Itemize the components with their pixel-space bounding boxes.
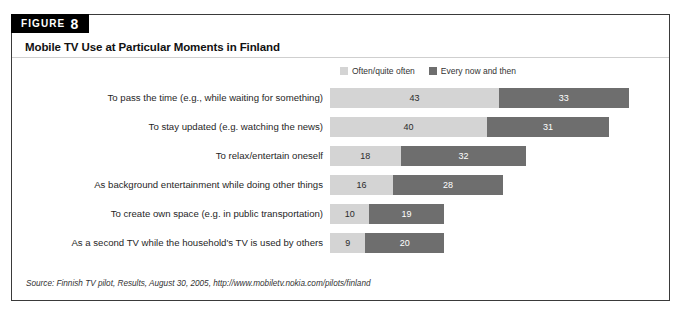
chart-row-label: As a second TV while the household's TV … [0,233,323,253]
chart-row: To create own space (e.g. in public tran… [0,204,686,224]
chart-row-bars: 4333 [330,88,629,108]
chart-legend: Often/quite often Every now and then [340,66,516,76]
chart-row-label: To relax/entertain oneself [0,146,323,166]
chart-row-bars: 1019 [330,204,444,224]
chart-row: To pass the time (e.g., while waiting fo… [0,88,686,108]
bar-segment-often-quite-often: 9 [330,233,365,253]
figure-badge-word: FIGURE [21,19,65,29]
bar-segment-often-quite-often: 16 [330,175,393,195]
chart-row: As background entertainment while doing … [0,175,686,195]
chart-row-label: As background entertainment while doing … [0,175,323,195]
chart-row: To stay updated (e.g. watching the news)… [0,117,686,137]
chart-row-label: To stay updated (e.g. watching the news) [0,117,323,137]
chart-row-label: To create own space (e.g. in public tran… [0,204,323,224]
title-divider [12,57,669,58]
legend-item-often-quite-often: Often/quite often [340,66,415,76]
bar-segment-often-quite-often: 18 [330,146,401,166]
legend-item-every-now-and-then: Every now and then [429,66,516,76]
chart-row: To relax/entertain oneself1832 [0,146,686,166]
bar-segment-often-quite-often: 40 [330,117,487,137]
page-title: Mobile TV Use at Particular Moments in F… [25,41,280,53]
legend-label-often-quite-often: Often/quite often [352,66,415,76]
chart-row: As a second TV while the household's TV … [0,233,686,253]
source-note: Source: Finnish TV pilot, Results, Augus… [26,279,371,288]
bar-segment-every-now-and-then: 33 [499,88,629,108]
chart-row-bars: 1628 [330,175,503,195]
bar-segment-every-now-and-then: 28 [393,175,503,195]
bar-segment-often-quite-often: 10 [330,204,369,224]
legend-swatch-every-now-and-then [429,67,437,75]
figure-badge: FIGURE 8 [11,14,89,33]
bar-segment-every-now-and-then: 32 [401,146,527,166]
chart-row-bars: 920 [330,233,444,253]
legend-swatch-often-quite-often [340,67,348,75]
bar-segment-every-now-and-then: 19 [369,204,444,224]
chart-row-bars: 4031 [330,117,609,137]
chart-row-bars: 1832 [330,146,526,166]
legend-label-every-now-and-then: Every now and then [441,66,516,76]
bar-segment-every-now-and-then: 31 [487,117,609,137]
bar-segment-often-quite-often: 43 [330,88,499,108]
chart-row-label: To pass the time (e.g., while waiting fo… [0,88,323,108]
bar-segment-every-now-and-then: 20 [365,233,444,253]
figure-badge-number: 8 [70,17,78,31]
stacked-bar-chart: To pass the time (e.g., while waiting fo… [0,88,686,262]
